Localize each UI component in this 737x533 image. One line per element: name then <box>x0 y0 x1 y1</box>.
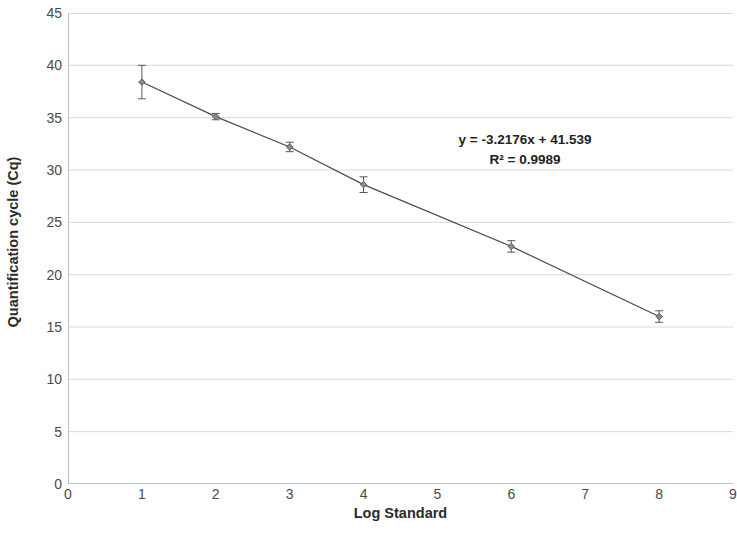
x-tick-label: 4 <box>349 487 379 501</box>
x-tick-label: 1 <box>127 487 157 501</box>
x-tick-label: 8 <box>644 487 674 501</box>
y-axis-title-label: Quantification cycle (Cq) <box>5 157 21 328</box>
x-tick-label: 5 <box>422 487 452 501</box>
y-tick-label: 45 <box>34 6 62 20</box>
standard-curve-chart: Quantification cycle (Cq) 05101520253035… <box>0 0 737 533</box>
y-axis-title: Quantification cycle (Cq) <box>0 0 26 484</box>
y-tick-label: 30 <box>34 163 62 177</box>
y-tick-label: 25 <box>34 215 62 229</box>
trendline-r-squared-text: R² = 0.9989 <box>430 150 620 170</box>
data-point-markers <box>139 79 663 320</box>
x-tick-label: 0 <box>53 487 83 501</box>
y-tick-label: 5 <box>34 425 62 439</box>
x-axis-title: Log Standard <box>68 505 733 521</box>
y-axis-tick-labels: 051015202530354045 <box>26 0 62 533</box>
x-tick-label: 9 <box>718 487 737 501</box>
x-tick-label: 6 <box>496 487 526 501</box>
plot-svg <box>68 13 733 484</box>
x-tick-label: 3 <box>275 487 305 501</box>
y-tick-label: 35 <box>34 111 62 125</box>
x-tick-label: 7 <box>570 487 600 501</box>
trendline-equation-text: y = -3.2176x + 41.539 <box>430 130 620 150</box>
y-tick-label: 20 <box>34 268 62 282</box>
trendline-annotation: y = -3.2176x + 41.539 R² = 0.9989 <box>430 130 620 171</box>
gridlines <box>68 13 733 432</box>
y-tick-label: 40 <box>34 58 62 72</box>
plot-border <box>68 13 733 484</box>
y-tick-label: 15 <box>34 320 62 334</box>
error-bars <box>138 65 663 322</box>
plot-area <box>68 13 733 484</box>
x-tick-label: 2 <box>201 487 231 501</box>
y-tick-label: 10 <box>34 372 62 386</box>
